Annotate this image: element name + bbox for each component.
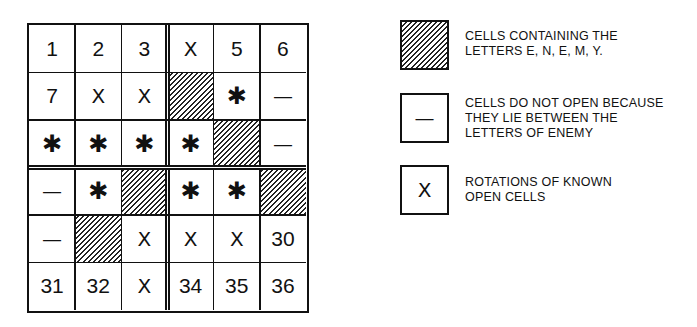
grid-cell-r5-c5: X <box>214 215 260 263</box>
asterisk-icon: ✱ <box>227 82 247 110</box>
x-mark-icon: X <box>418 178 432 202</box>
dash-icon: — <box>273 84 293 108</box>
grid-cell-r3-c4: ✱ <box>168 120 214 168</box>
legend-hatched-label: CELLS CONTAINING THE LETTERS E, N, E, M,… <box>465 29 618 59</box>
grid-cell-r4-c6 <box>260 168 306 216</box>
grid-cell-r1-c1: 1 <box>29 25 75 73</box>
legend-line: CELLS DO NOT OPEN BECAUSE <box>465 96 664 111</box>
grid-cell-r6-c2: 32 <box>75 263 121 311</box>
grid-cell-r6-c1: 31 <box>29 263 75 311</box>
asterisk-icon: ✱ <box>181 130 201 158</box>
grid-cell-r3-c3: ✱ <box>121 120 167 168</box>
legend-dash-label: CELLS DO NOT OPEN BECAUSE THEY LIE BETWE… <box>465 96 664 141</box>
grid-cell-r2-c2: X <box>75 73 121 121</box>
grid-cell-r2-c5: ✱ <box>214 73 260 121</box>
grid-cell-r4-c3 <box>121 168 167 216</box>
x-mark-icon: X <box>138 274 152 298</box>
asterisk-icon: ✱ <box>134 130 154 158</box>
cell-number: 6 <box>277 37 289 61</box>
grid-double-divider-horizontal <box>29 165 306 170</box>
grid-line-horizontal <box>29 72 306 74</box>
grid-cell-r5-c2 <box>75 215 121 263</box>
grid-cell-r1-c5: 5 <box>214 25 260 73</box>
grid-cell-r5-c6: 30 <box>260 215 306 263</box>
grid-cell-r6-c5: 35 <box>214 263 260 311</box>
grid-cell-r2-c1: 7 <box>29 73 75 121</box>
x-mark-icon: X <box>138 84 152 108</box>
grid-cell-r4-c2: ✱ <box>75 168 121 216</box>
x-mark-icon: X <box>184 227 198 251</box>
dash-icon: — <box>42 227 62 251</box>
cell-number: 3 <box>139 37 151 61</box>
grid-cell-r3-c5 <box>214 120 260 168</box>
cell-number: 1 <box>46 37 58 61</box>
grid-line-horizontal <box>29 262 306 264</box>
grid-cell-r5-c3: X <box>121 215 167 263</box>
x-mark-icon: X <box>230 227 244 251</box>
grid-line-horizontal <box>29 119 306 121</box>
grid-cell-r1-c6: 6 <box>260 25 306 73</box>
dash-icon: — <box>273 132 293 156</box>
cell-number: 2 <box>92 37 104 61</box>
grid-cell-r6-c3: X <box>121 263 167 311</box>
grid-line-horizontal <box>29 214 306 216</box>
grid-cell-r4-c1: — <box>29 168 75 216</box>
x-mark-icon: X <box>184 37 198 61</box>
grid-cell-r4-c5: ✱ <box>214 168 260 216</box>
dash-icon: — <box>415 106 435 130</box>
cell-number: 30 <box>271 227 294 251</box>
cell-number: 34 <box>179 274 202 298</box>
legend-x-swatch: X <box>400 165 449 215</box>
cell-number: 5 <box>231 37 243 61</box>
legend-line: ROTATIONS OF KNOWN <box>465 175 612 190</box>
cell-number: 7 <box>46 84 58 108</box>
asterisk-icon: ✱ <box>181 177 201 205</box>
grid-cell-r6-c6: 36 <box>260 263 306 311</box>
grid-cell-r2-c4 <box>168 73 214 121</box>
grid-cell-r4-c4: ✱ <box>168 168 214 216</box>
legend-line: THEY LIE BETWEEN THE <box>465 111 664 126</box>
x-mark-icon: X <box>138 227 152 251</box>
grid-cell-r5-c4: X <box>168 215 214 263</box>
grid-cell-r1-c4: X <box>168 25 214 73</box>
asterisk-icon: ✱ <box>88 130 108 158</box>
legend-line: CELLS CONTAINING THE <box>465 29 618 44</box>
dash-icon: — <box>42 179 62 203</box>
cell-number: 36 <box>271 274 294 298</box>
grid-cell-r1-c2: 2 <box>75 25 121 73</box>
grid-cell-r3-c2: ✱ <box>75 120 121 168</box>
cell-number: 32 <box>87 274 110 298</box>
grid-cell-r6-c4: 34 <box>168 263 214 311</box>
grid-cell-r1-c3: 3 <box>121 25 167 73</box>
legend-line: OPEN CELLS <box>465 190 612 205</box>
grid-cell-r2-c3: X <box>121 73 167 121</box>
cell-number: 35 <box>225 274 248 298</box>
grid-cell-r3-c1: ✱ <box>29 120 75 168</box>
legend-x-label: ROTATIONS OF KNOWN OPEN CELLS <box>465 175 612 205</box>
legend-hatched-swatch <box>400 20 449 70</box>
x-mark-icon: X <box>91 84 105 108</box>
grid-cell-r5-c1: — <box>29 215 75 263</box>
legend-line: LETTERS OF ENEMY <box>465 126 664 141</box>
grid-cell-r2-c6: — <box>260 73 306 121</box>
legend-line: LETTERS E, N, E, M, Y. <box>465 44 618 59</box>
cell-number: 31 <box>40 274 63 298</box>
grid-cell-r3-c6: — <box>260 120 306 168</box>
asterisk-icon: ✱ <box>227 177 247 205</box>
legend-dash-swatch: — <box>400 93 449 143</box>
cipher-grid: 123X567XX✱—✱✱✱✱——✱✱✱—XXX303132X343536 <box>27 23 309 313</box>
asterisk-icon: ✱ <box>88 177 108 205</box>
asterisk-icon: ✱ <box>42 130 62 158</box>
